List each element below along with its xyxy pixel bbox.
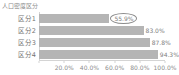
bar-track: 55.9% [39,14,165,23]
bar [39,50,158,59]
x-axis-tick-mark [89,61,90,63]
x-axis: 20.0% 40.0% 60.0% 80.0% 100.0% [39,60,165,75]
category-label: 区分4 [0,49,39,59]
bar-track: 87.8% [39,38,165,47]
x-axis-tick-mark [139,61,140,63]
bar-row: 区分3 87.8% [0,36,179,48]
category-label: 区分1 [0,13,39,23]
bar [39,14,109,23]
bar-track: 94.3% [39,50,165,59]
bar-row: 区分2 83.0% [0,24,179,36]
chart-title: 人口密度区分 [2,2,38,10]
bar [39,26,144,35]
x-axis-tick-mark [165,61,166,63]
value-label: 83.0% [146,27,165,34]
x-axis-tick-label: 20.0% [55,64,74,71]
x-axis-tick-label: 80.0% [130,64,149,71]
bar-track: 83.0% [39,26,165,35]
x-axis-tick-label: 60.0% [105,64,124,71]
x-axis-tick-mark [64,61,65,63]
category-label: 区分3 [0,37,39,47]
x-axis-tick-label: 40.0% [80,64,99,71]
bar-chart: 人口密度区分 区分1 55.9% 区分2 83.0% 区分3 87.8% 区分4 [0,0,179,75]
bar [39,38,150,47]
x-axis-tick-mark [39,61,40,63]
x-axis-tick-mark [114,61,115,63]
x-axis-tick-label: 100.0% [154,64,177,71]
value-label: 87.8% [152,39,171,46]
plot-area: 区分1 55.9% 区分2 83.0% 区分3 87.8% 区分4 9 [0,12,179,60]
value-label-highlight-ellipse: 55.9% [110,13,137,24]
bar-row: 区分4 94.3% [0,48,179,60]
category-label: 区分2 [0,25,39,35]
value-label: 94.3% [160,51,179,58]
bar-row: 区分1 55.9% [0,12,179,24]
